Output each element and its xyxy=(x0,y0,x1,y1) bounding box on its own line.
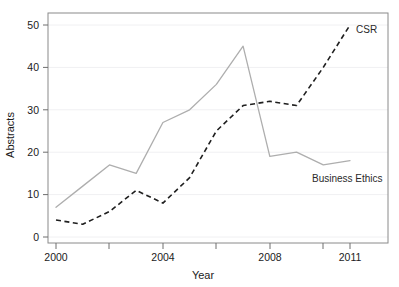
y-tick-label-0: 0 xyxy=(33,231,39,243)
series-label-csr: CSR xyxy=(356,24,377,35)
y-axis-ticks xyxy=(43,25,48,237)
series-line-business-ethics xyxy=(56,46,350,207)
y-tick-label-30: 30 xyxy=(27,104,39,116)
x-tick-label-2000: 2000 xyxy=(44,251,68,263)
y-tick-label-10: 10 xyxy=(27,188,39,200)
x-tick-label-2004: 2004 xyxy=(151,251,175,263)
x-axis-title: Year xyxy=(192,269,215,281)
chart-figure: 50 40 30 20 10 0 2000 2004 2008 2011 Yea… xyxy=(0,0,399,287)
x-axis-tick-labels: 2000 2004 2008 2011 xyxy=(44,251,361,263)
series-label-business-ethics: Business Ethics xyxy=(312,173,383,184)
gridlines xyxy=(48,25,388,237)
y-tick-label-40: 40 xyxy=(27,61,39,73)
y-axis-tick-labels: 50 40 30 20 10 0 xyxy=(27,19,39,243)
y-tick-label-20: 20 xyxy=(27,146,39,158)
plot-frame xyxy=(48,13,388,243)
x-tick-label-2011: 2011 xyxy=(339,251,362,263)
x-tick-label-2008: 2008 xyxy=(258,251,282,263)
y-axis-title: Abstracts xyxy=(4,112,16,158)
y-tick-label-50: 50 xyxy=(27,19,39,31)
line-chart: 50 40 30 20 10 0 2000 2004 2008 2011 Yea… xyxy=(0,0,399,287)
x-axis-ticks xyxy=(56,243,350,249)
